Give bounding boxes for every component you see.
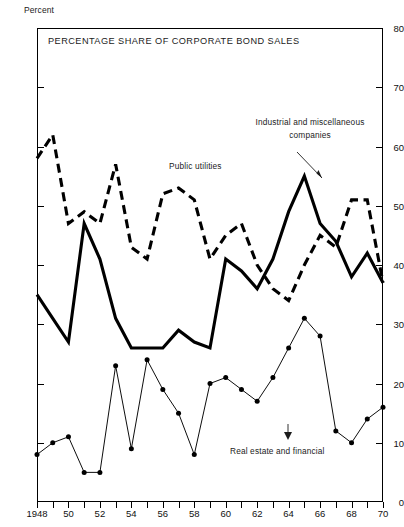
data-point-marker (239, 387, 244, 392)
data-point-marker (381, 405, 386, 410)
data-point-marker (176, 411, 181, 416)
data-point-marker (255, 399, 260, 404)
data-point-marker (113, 363, 118, 368)
data-point-marker (223, 375, 228, 380)
annotation-real-estate: Real estate and financial (230, 446, 325, 456)
data-point-marker (365, 417, 370, 422)
annotation-industrial-line2: companies (289, 130, 330, 140)
series-layer (0, 0, 404, 527)
data-point-marker (160, 387, 165, 392)
series-public-utilities (37, 135, 383, 301)
data-point-marker (286, 345, 291, 350)
data-point-marker (333, 428, 338, 433)
data-point-marker (192, 452, 197, 457)
data-point-marker (208, 381, 213, 386)
data-point-marker (349, 440, 354, 445)
series-industrial (37, 176, 383, 348)
annotation-arrow-head-real-estate (284, 432, 292, 440)
chart-root: Percent PERCENTAGE SHARE OF CORPORATE BO… (0, 0, 404, 527)
data-point-marker (35, 452, 40, 457)
data-point-marker (50, 440, 55, 445)
annotation-arrow-head (317, 170, 323, 178)
public-utilities-line (37, 135, 383, 301)
data-point-marker (129, 446, 134, 451)
annotation-industrial-line1: Industrial and miscellaneous (256, 117, 365, 127)
data-point-marker (318, 334, 323, 339)
data-point-marker (302, 316, 307, 321)
data-point-marker (270, 375, 275, 380)
data-point-marker (145, 357, 150, 362)
data-point-marker (66, 434, 71, 439)
data-point-marker (97, 470, 102, 475)
industrial-line (37, 176, 383, 348)
data-point-marker (82, 470, 87, 475)
annotation-public-utilities: Public utilities (169, 161, 222, 171)
